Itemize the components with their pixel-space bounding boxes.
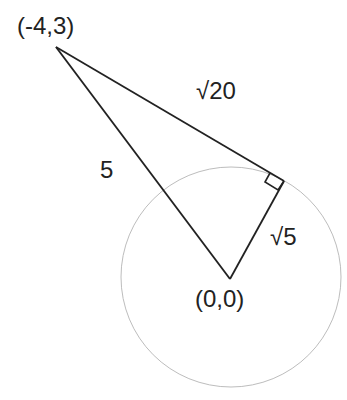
point-label-external: (-4,3) — [17, 12, 74, 39]
segment-label-hypotenuse: 5 — [100, 156, 113, 183]
point-label-center: (0,0) — [195, 285, 244, 312]
segment-tangent — [56, 47, 284, 181]
segment-label-tangent: √20 — [196, 77, 236, 104]
segment-label-radius: √5 — [270, 223, 297, 250]
tangent-diagram: (-4,3) (0,0) 5 √20 √5 — [0, 0, 347, 400]
